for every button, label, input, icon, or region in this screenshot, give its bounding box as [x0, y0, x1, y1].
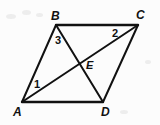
vertex-label-C: C	[136, 9, 145, 21]
angle-label-1: 1	[34, 79, 40, 90]
diagonal-BD	[56, 25, 103, 102]
vertex-label-B: B	[51, 10, 60, 22]
point-label-E: E	[86, 60, 93, 71]
vertex-label-D: D	[101, 106, 110, 118]
angle-label-2: 2	[112, 28, 118, 39]
geometry-figure: A B C D E 1 2 3	[0, 0, 160, 125]
angle-label-3: 3	[55, 35, 61, 46]
vertex-label-A: A	[13, 106, 22, 118]
